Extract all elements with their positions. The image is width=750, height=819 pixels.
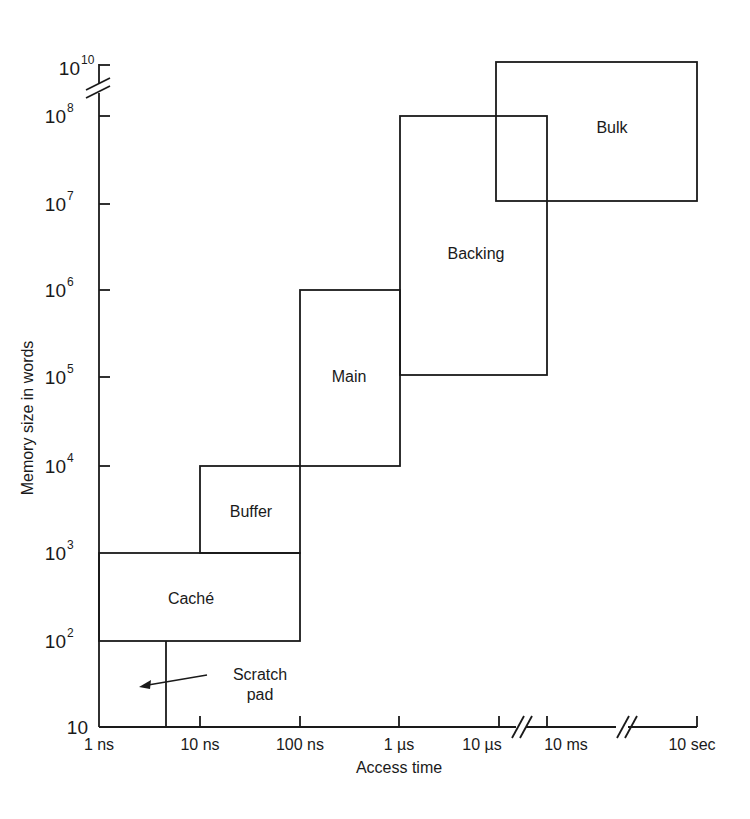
scratch-pad-arrow [139,675,207,689]
label-scratch-line1: Scratch [233,666,287,683]
y-tick-1e10: 10 [59,58,80,79]
svg-text:8: 8 [67,101,74,115]
y-tick-1e4: 10 [45,456,66,477]
y-tick-1e6: 10 [45,280,66,301]
x-tick-10ms: 10 ms [544,736,588,753]
x-tick-100ns: 100 ns [276,736,324,753]
memory-hierarchy-chart: 10 10 2 10 3 10 4 10 5 10 6 10 7 10 8 10… [0,0,750,819]
svg-text:4: 4 [67,451,74,465]
svg-text:5: 5 [67,362,74,376]
x-tick-1ns: 1 ns [84,736,114,753]
x-tick-10sec: 10 sec [668,736,715,753]
svg-text:7: 7 [67,189,74,203]
regions [99,62,697,727]
x-tick-1us: 1 µs [384,736,415,753]
svg-text:2: 2 [67,626,74,640]
x-axis [99,716,697,738]
y-tick-1e5: 10 [45,367,66,388]
label-buffer: Buffer [230,503,273,520]
x-axis-title: Access time [356,759,442,776]
svg-text:6: 6 [67,275,74,289]
region-labels: Caché Buffer Main Backing Bulk Scratch p… [168,119,629,703]
label-cache: Caché [168,590,214,607]
y-tick-10: 10 [67,717,88,738]
y-tick-labels: 10 10 2 10 3 10 4 10 5 10 6 10 7 10 8 10… [45,53,95,738]
label-scratch-line2: pad [247,686,274,703]
label-backing: Backing [448,245,505,262]
y-axis [86,64,110,727]
y-tick-1e8: 10 [45,106,66,127]
svg-text:3: 3 [67,538,74,552]
x-tick-10ns: 10 ns [180,736,219,753]
x-tick-10us: 10 µs [462,736,501,753]
label-bulk: Bulk [596,119,628,136]
y-tick-1e3: 10 [45,543,66,564]
y-tick-1e2: 10 [45,631,66,652]
y-tick-1e7: 10 [45,194,66,215]
svg-text:10: 10 [81,53,95,67]
y-axis-title: Memory size in words [19,341,36,496]
arrowhead-icon [139,680,151,689]
label-main: Main [332,368,367,385]
x-tick-labels: 1 ns 10 ns 100 ns 1 µs 10 µs 10 ms 10 se… [84,736,716,753]
